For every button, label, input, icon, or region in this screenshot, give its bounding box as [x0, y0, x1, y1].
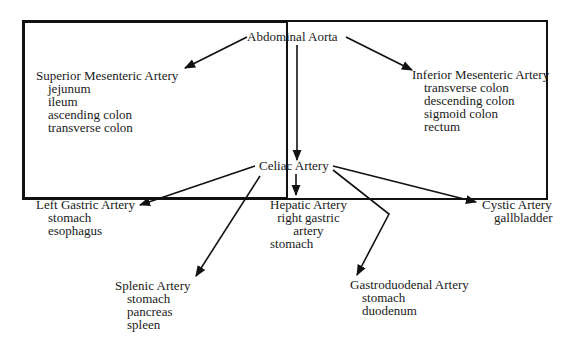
node-item: transverse colon	[36, 121, 178, 134]
node-splenic-artery: Splenic Artery stomach pancreas spleen	[115, 279, 190, 331]
node-title: Abdominal Aorta	[247, 30, 338, 43]
node-item: stomach	[270, 237, 347, 250]
node-item: esophagus	[36, 224, 135, 237]
node-item: spleen	[115, 318, 190, 331]
node-item: gallbladder	[482, 211, 552, 224]
connector-arrows	[0, 0, 582, 353]
node-cystic-artery: Cystic Artery gallbladder	[482, 198, 552, 224]
node-gastroduodenal-artery: Gastroduodenal Artery stomach duodenum	[350, 278, 469, 317]
node-superior-mesenteric-artery: Superior Mesenteric Artery jejunum ileum…	[36, 69, 178, 134]
node-abdominal-aorta: Abdominal Aorta	[247, 30, 338, 43]
node-celiac-artery: Celiac Artery	[259, 159, 329, 172]
node-title: Celiac Artery	[259, 159, 329, 172]
node-hepatic-artery: Hepatic Artery right gastric artery stom…	[270, 198, 347, 250]
node-inferior-mesenteric-artery: Inferior Mesenteric Artery transverse co…	[412, 68, 549, 133]
node-item: duodenum	[350, 304, 469, 317]
node-left-gastric-artery: Left Gastric Artery stomach esophagus	[36, 198, 135, 237]
node-item: rectum	[412, 120, 549, 133]
